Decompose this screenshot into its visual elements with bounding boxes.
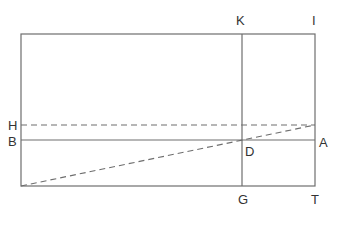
label-H: H	[8, 118, 17, 133]
label-I: I	[312, 13, 316, 28]
diagonal-dashed-line	[21, 125, 315, 186]
label-A: A	[319, 135, 328, 150]
label-T: T	[311, 192, 319, 207]
label-K: K	[236, 13, 245, 28]
label-D: D	[245, 144, 254, 159]
label-G: G	[238, 192, 248, 207]
geometry-diagram: K I H B A D G T	[0, 0, 342, 229]
outer-rectangle	[21, 34, 315, 186]
label-B: B	[8, 134, 17, 149]
